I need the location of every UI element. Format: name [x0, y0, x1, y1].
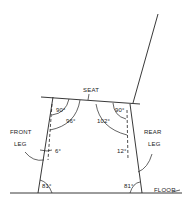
seat-line — [41, 97, 140, 104]
angle-front-81: 81° — [42, 183, 52, 189]
diagram-drawing: SEAT FRONT LEG REAR LEG FLOOR 90° 96° 10… — [0, 0, 194, 206]
rear-vertical-reference — [127, 110, 128, 160]
angle-front-96: 96° — [66, 118, 76, 124]
chair-angle-diagram: SEAT FRONT LEG REAR LEG FLOOR 90° 96° 10… — [0, 0, 194, 206]
backrest-line — [133, 14, 158, 103]
angle-rear-12: 12° — [117, 148, 127, 154]
angle-rear-81: 81° — [124, 183, 134, 189]
rear-leg-line — [130, 104, 142, 193]
floor-label: FLOOR — [154, 187, 176, 193]
front-leg-label-1: FRONT — [10, 129, 32, 135]
seat-label: SEAT — [83, 87, 99, 93]
angle-front-6: 6° — [55, 148, 62, 154]
front-6-arc — [40, 150, 52, 151]
angle-rear-102: 102° — [97, 118, 111, 124]
seat-leader — [88, 94, 89, 100]
front-leg-line — [38, 97, 53, 193]
angle-front-90: 90° — [56, 107, 66, 113]
front-96-arc — [50, 100, 80, 130]
front-leg-label-2: LEG — [14, 141, 27, 147]
rear-leg-leader — [138, 154, 152, 172]
rear-leg-label-1: REAR — [144, 129, 162, 135]
front-vertical-reference — [48, 104, 52, 160]
rear-leg-label-2: LEG — [148, 141, 161, 147]
front-leg-leader — [25, 152, 44, 160]
angle-rear-90: 90° — [115, 107, 125, 113]
